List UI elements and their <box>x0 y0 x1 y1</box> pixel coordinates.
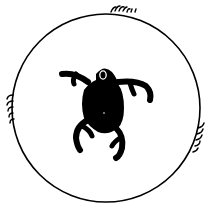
creature-body <box>82 68 124 133</box>
figure <box>0 0 213 207</box>
leg-front-left-branch <box>73 74 76 84</box>
leg-back-right-branch <box>112 138 120 146</box>
hair-top-icon <box>111 6 136 12</box>
leg-back-left-branch <box>82 126 92 136</box>
creature-icon <box>62 68 151 158</box>
body-dot <box>103 112 105 114</box>
